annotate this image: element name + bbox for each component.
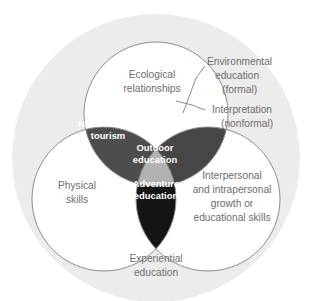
callout-environmental-education-line-2: education <box>215 70 259 81</box>
callout-interpretation-line-1: Interpretation <box>212 104 272 115</box>
callout-interpretation-line-2: (nonformal) <box>221 118 273 129</box>
label-adventure-education: Adventure education <box>133 178 179 201</box>
callout-environmental-education-line-1: Environmental <box>207 56 272 67</box>
label-ecological-relationships-line-2: relationships <box>123 83 180 94</box>
label-ecological-relationships-line-1: Ecological <box>129 69 175 80</box>
venn-diagram: Ecological relationships Physical skills… <box>0 0 327 301</box>
callout-environmental-education-line-3: (formal) <box>222 84 257 95</box>
label-nature-based-tourism-line-1: Nature-based <box>78 118 138 129</box>
label-experiential-education-line-2: education <box>134 267 178 278</box>
label-interpersonal-growth-line-4: educational skills <box>193 212 270 223</box>
label-interpersonal-growth-line-1: Interpersonal <box>202 170 261 181</box>
label-outdoor-education-line-2: education <box>133 154 178 165</box>
label-interpersonal-growth-line-2: and intrapersonal <box>193 184 272 195</box>
label-nature-based-tourism-line-2: tourism <box>91 130 125 141</box>
label-outdoor-education: Outdoor education <box>133 142 178 165</box>
label-experiential-education-line-1: Experiential <box>129 253 182 264</box>
label-outdoor-education-line-1: Outdoor <box>137 142 174 153</box>
venn-diagram-canvas: Ecological relationships Physical skills… <box>0 0 327 301</box>
label-adventure-education-line-1: Adventure <box>133 178 179 189</box>
label-physical-skills-line-2: skills <box>66 194 88 205</box>
label-adventure-education-line-2: education <box>134 190 179 201</box>
label-interpersonal-growth-line-3: growth or <box>211 198 254 209</box>
label-physical-skills-line-1: Physical <box>58 180 96 191</box>
